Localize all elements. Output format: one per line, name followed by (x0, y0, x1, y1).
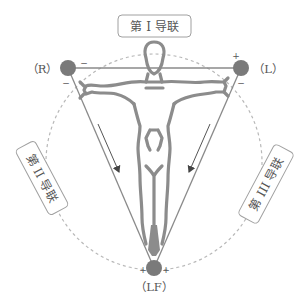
lead-2-label-box: 第 II 导联 (15, 140, 69, 216)
figure-legs (148, 225, 160, 256)
lead-3-label-box: 第 III 导联 (238, 144, 295, 225)
lead-2-direction-arrow (98, 124, 119, 172)
electrode-right-arm-label: （R） (27, 62, 58, 76)
einthoven-triangle-diagram: 第 I 导联 第 II 导联 第 III 导联 (0, 0, 308, 305)
figure-pelvis (146, 166, 162, 232)
figure-torso (134, 104, 146, 244)
electrode-left-arm (233, 60, 249, 76)
electrode-left-foot-label: （LF） (135, 280, 173, 294)
polarity-mark-r-top: − (80, 58, 88, 68)
polarity-mark-r-bottom: − (62, 78, 70, 88)
figure-arm-left (162, 81, 226, 104)
electrode-right-arm (60, 60, 76, 76)
polarity-mark-l-bottom: − (237, 78, 245, 88)
figure-arm-right (84, 82, 146, 104)
lead-1-label-box: 第 I 导联 (118, 15, 191, 37)
figure-head (145, 42, 164, 74)
polarity-mark-lf-left: + (139, 265, 147, 275)
figure-neck (146, 74, 163, 88)
human-figure (80, 42, 228, 244)
electrode-left-foot (146, 260, 162, 276)
lead-1-label: 第 I 导联 (130, 20, 178, 34)
polarity-mark-l-top: + (232, 51, 240, 61)
figure-chest (146, 130, 162, 150)
polarity-mark-lf-right: + (162, 265, 170, 275)
electrode-left-arm-label: （L） (253, 62, 283, 76)
